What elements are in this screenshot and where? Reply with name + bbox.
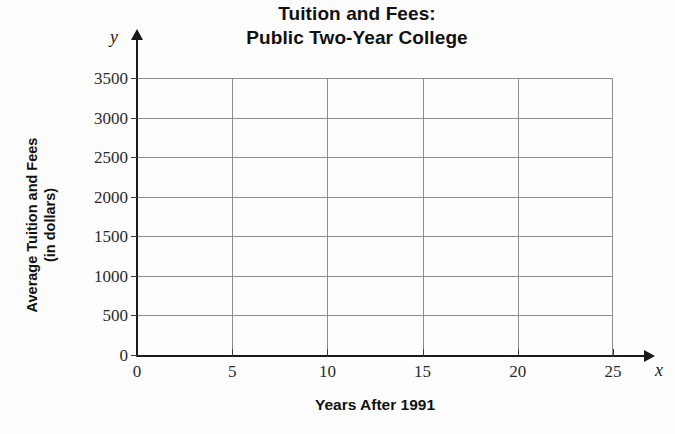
y-tick-mark-3500 bbox=[131, 78, 138, 79]
x-tick-label-20: 20 bbox=[488, 363, 548, 380]
x-axis-arrow-icon bbox=[644, 350, 655, 362]
y-tick-mark-2500 bbox=[131, 157, 138, 158]
y-axis-title: Average Tuition and Fees (in dollars) bbox=[23, 100, 59, 350]
x-tick-label-10: 10 bbox=[297, 363, 357, 380]
y-tick-mark-0 bbox=[131, 355, 138, 356]
gridline-y-3500 bbox=[137, 78, 613, 79]
y-tick-label-2500: 2500 bbox=[68, 149, 128, 166]
x-tick-mark-20 bbox=[518, 349, 519, 356]
gridline-x-15 bbox=[423, 78, 424, 355]
y-tick-label-2000: 2000 bbox=[68, 189, 128, 206]
y-tick-mark-1000 bbox=[131, 276, 138, 277]
y-tick-label-500: 500 bbox=[68, 307, 128, 324]
y-axis-title-line-1: Average Tuition and Fees bbox=[23, 100, 41, 350]
y-tick-mark-1500 bbox=[131, 236, 138, 237]
x-tick-mark-5 bbox=[232, 349, 233, 356]
y-tick-mark-2000 bbox=[131, 197, 138, 198]
y-tick-mark-3000 bbox=[131, 118, 138, 119]
gridline-x-5 bbox=[232, 78, 233, 355]
gridline-y-1500 bbox=[137, 236, 613, 237]
gridline-y-2000 bbox=[137, 197, 613, 198]
x-tick-mark-15 bbox=[423, 349, 424, 356]
x-axis-title: Years After 1991 bbox=[137, 396, 613, 414]
x-tick-label-5: 5 bbox=[202, 363, 262, 380]
gridline-x-20 bbox=[518, 78, 519, 355]
gridline-y-500 bbox=[137, 315, 613, 316]
x-tick-label-0: 0 bbox=[107, 363, 167, 380]
chart-figure: Tuition and Fees: Public Two-Year Colleg… bbox=[0, 0, 675, 434]
y-axis-variable-label: y bbox=[110, 27, 118, 48]
y-tick-mark-500 bbox=[131, 315, 138, 316]
x-tick-mark-25 bbox=[613, 349, 614, 356]
plot-area bbox=[137, 78, 613, 355]
y-tick-label-1500: 1500 bbox=[68, 228, 128, 245]
x-tick-mark-10 bbox=[327, 349, 328, 356]
chart-title-line-2: Public Two-Year College bbox=[137, 26, 577, 50]
gridline-y-1000 bbox=[137, 276, 613, 277]
chart-title: Tuition and Fees: Public Two-Year Colleg… bbox=[137, 2, 577, 50]
x-tick-labels: 0 5 10 15 20 25 bbox=[0, 363, 675, 389]
y-tick-label-0: 0 bbox=[68, 347, 128, 364]
y-tick-label-3000: 3000 bbox=[68, 110, 128, 127]
x-axis-line bbox=[136, 355, 646, 357]
x-tick-label-15: 15 bbox=[393, 363, 453, 380]
gridline-x-10 bbox=[327, 78, 328, 355]
chart-title-line-1: Tuition and Fees: bbox=[137, 2, 577, 26]
gridline-y-3000 bbox=[137, 118, 613, 119]
y-axis-title-line-2: (in dollars) bbox=[41, 100, 59, 350]
gridline-y-2500 bbox=[137, 157, 613, 158]
y-tick-label-3500: 3500 bbox=[68, 70, 128, 87]
x-axis-variable-label: x bbox=[655, 360, 663, 381]
x-tick-label-25: 25 bbox=[583, 363, 643, 380]
y-axis-arrow-icon bbox=[131, 29, 143, 40]
y-tick-label-1000: 1000 bbox=[68, 268, 128, 285]
gridline-x-25 bbox=[612, 78, 613, 355]
